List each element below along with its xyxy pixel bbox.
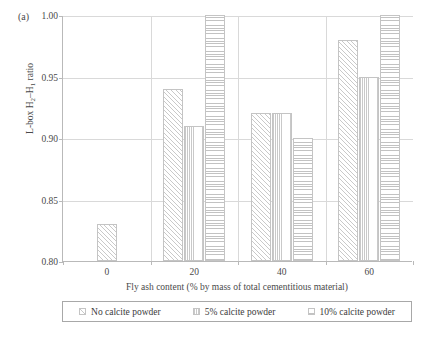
x-tick-mark bbox=[238, 261, 239, 265]
x-tick-label: 20 bbox=[190, 267, 200, 277]
y-axis-title-sub2: 1 bbox=[29, 83, 37, 87]
x-tick-label: 0 bbox=[104, 267, 109, 277]
gridline-vertical bbox=[238, 16, 239, 262]
y-tick-mark bbox=[59, 139, 63, 140]
x-tick-label: 60 bbox=[365, 267, 375, 277]
x-tick-mark bbox=[151, 261, 152, 265]
x-tick-mark bbox=[326, 261, 327, 265]
y-axis-title-prefix: L-box H bbox=[25, 101, 35, 133]
gridline-vertical bbox=[326, 16, 327, 262]
bar bbox=[251, 113, 271, 261]
bar bbox=[272, 113, 292, 261]
y-axis-title-suffix: ratio bbox=[25, 63, 35, 83]
bar bbox=[163, 89, 183, 261]
y-tick-mark bbox=[59, 16, 63, 17]
y-tick-mark bbox=[59, 78, 63, 79]
gridline-vertical bbox=[151, 16, 152, 262]
legend-swatch-icon bbox=[308, 308, 315, 315]
bar bbox=[293, 138, 313, 261]
y-tick-label: 0.95 bbox=[41, 73, 58, 83]
y-axis-title-sub1: 2 bbox=[29, 98, 37, 102]
legend-label: No calcite powder bbox=[91, 307, 161, 317]
legend-swatch-icon bbox=[79, 308, 86, 315]
figure-panel-a: (a) L-box H2–H1 ratio 0.800.850.900.951.… bbox=[0, 0, 441, 339]
y-tick-label: 0.90 bbox=[41, 134, 58, 144]
plot-area: 0.800.850.900.951.00 0204060 bbox=[62, 16, 412, 262]
x-tick-label: 40 bbox=[277, 267, 287, 277]
legend-entry[interactable]: 10% calcite powder bbox=[308, 307, 395, 317]
legend-swatch-icon bbox=[193, 308, 200, 315]
y-axis-title: L-box H2–H1 ratio bbox=[25, 23, 38, 173]
x-tick-mark bbox=[63, 261, 64, 265]
bar bbox=[97, 224, 117, 261]
bar bbox=[359, 77, 379, 262]
x-tick-mark bbox=[413, 261, 414, 265]
y-axis-title-mid: –H bbox=[25, 86, 35, 98]
legend-entry[interactable]: No calcite powder bbox=[79, 307, 161, 317]
legend-entry[interactable]: 5% calcite powder bbox=[193, 307, 276, 317]
bar bbox=[205, 15, 225, 261]
y-tick-label: 1.00 bbox=[41, 11, 58, 21]
bar bbox=[184, 126, 204, 261]
y-tick-label: 0.80 bbox=[41, 257, 58, 267]
y-tick-mark bbox=[59, 201, 63, 202]
chart-legend: No calcite powder5% calcite powder10% ca… bbox=[62, 301, 412, 322]
legend-label: 10% calcite powder bbox=[320, 307, 395, 317]
panel-label: (a) bbox=[18, 11, 29, 22]
bar bbox=[338, 40, 358, 261]
y-tick-label: 0.85 bbox=[41, 196, 58, 206]
x-axis-title: Fly ash content (% by mass of total ceme… bbox=[62, 282, 412, 292]
bar bbox=[380, 15, 400, 261]
legend-label: 5% calcite powder bbox=[205, 307, 276, 317]
